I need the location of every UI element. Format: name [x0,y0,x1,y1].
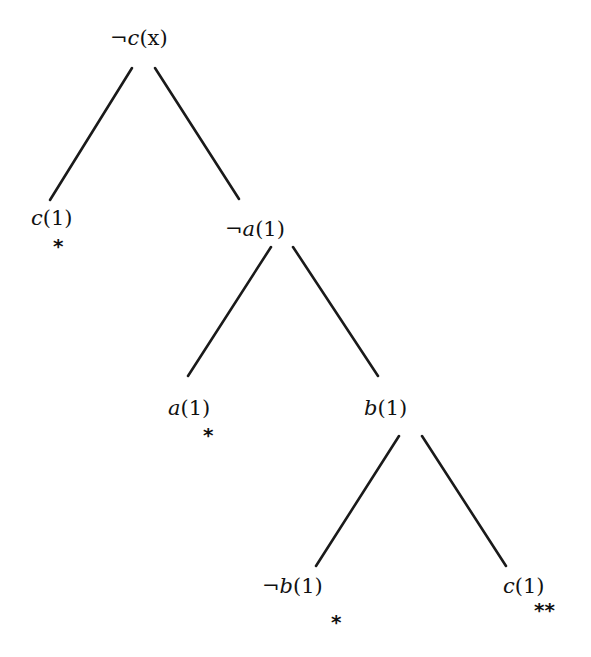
closed-branch-mark: * [331,612,341,632]
predicate: c [31,206,43,230]
argument: (1) [377,396,407,420]
argument: (1) [293,574,323,598]
predicate: a [243,217,256,241]
edge-root-to-c1 [50,68,132,200]
argument: (1) [515,574,545,598]
node-b1: b(1) [364,396,407,420]
predicate: b [280,574,293,598]
negation-symbol: ¬ [110,26,128,50]
edge-b1-to-c1 [422,436,506,566]
predicate: a [168,396,181,420]
node-c1-right: c(1) [503,574,545,598]
negation-symbol: ¬ [262,574,280,598]
edge-root-to-not-a1 [155,68,239,199]
closed-branch-mark: * [203,425,213,445]
argument: (x) [139,26,167,50]
closed-branch-double-mark: ** [534,600,555,620]
node-root: ¬c(x) [110,26,168,50]
negation-symbol: ¬ [225,217,243,241]
node-not-a1: ¬a(1) [225,217,285,241]
edge-not-a1-to-a1 [188,247,271,376]
node-not-b1: ¬b(1) [262,574,323,598]
argument: (1) [255,217,285,241]
predicate: b [364,396,377,420]
predicate: c [128,26,140,50]
closed-branch-mark: * [53,236,63,256]
argument: (1) [43,206,73,230]
edge-not-a1-to-b1 [293,247,378,376]
predicate: c [503,574,515,598]
argument: (1) [181,396,211,420]
node-c1-left: c(1) [31,206,73,230]
tree-edges [0,0,591,657]
edge-b1-to-not-b1 [316,436,399,566]
node-a1: a(1) [168,396,210,420]
